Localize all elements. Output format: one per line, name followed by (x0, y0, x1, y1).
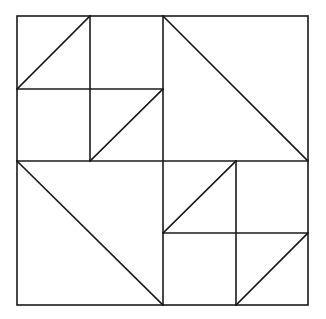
br-sub-br-diagonal-line (236, 233, 308, 305)
segment-group (17, 16, 308, 305)
tl-sub-tl-diagonal-line (17, 16, 90, 89)
tr-quadrant-diagonal-line (163, 16, 308, 161)
diagram-svg (0, 0, 326, 319)
bl-quadrant-diagonal-line (17, 161, 163, 305)
br-sub-tl-diagonal-line (163, 161, 236, 233)
quilt-diagram (0, 0, 326, 319)
tl-sub-br-diagonal-line (90, 89, 163, 161)
